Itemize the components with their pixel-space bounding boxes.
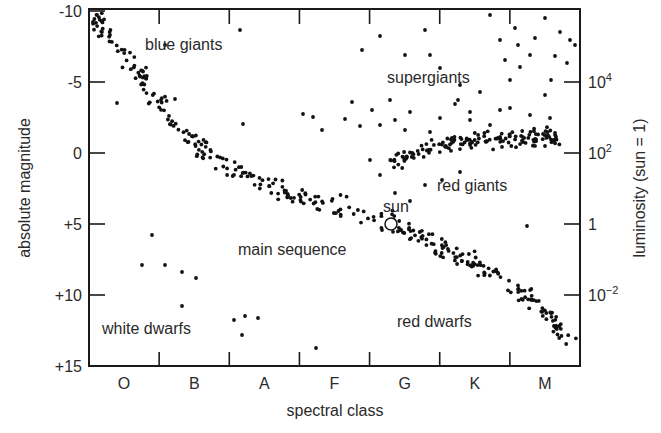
star-dot — [543, 144, 547, 148]
star-dot — [98, 18, 102, 22]
star-dot — [574, 336, 578, 340]
star-dot — [430, 242, 434, 246]
star-dot — [190, 134, 194, 138]
star-dot — [258, 187, 262, 191]
star-dot — [530, 294, 534, 298]
star-dot — [423, 28, 427, 32]
star-dot — [487, 266, 491, 270]
star-dot — [491, 148, 495, 152]
star-dot — [503, 58, 507, 62]
star-dot — [554, 324, 558, 328]
star-dot — [518, 65, 522, 69]
star-dot — [281, 179, 285, 183]
star-dot — [553, 141, 557, 145]
star-dot — [291, 200, 295, 204]
star-dot — [276, 192, 280, 196]
star-dot — [553, 54, 557, 58]
star-dot — [99, 30, 103, 34]
star-dot — [183, 138, 187, 142]
star-dot — [478, 90, 482, 94]
star-dot — [532, 298, 536, 302]
star-dot — [372, 218, 376, 222]
star-dot — [123, 48, 127, 52]
star-dot — [308, 198, 312, 202]
star-dot — [483, 131, 487, 135]
star-dot — [449, 149, 453, 153]
star-dot — [519, 134, 523, 138]
star-dot — [132, 55, 136, 59]
star-dot — [412, 152, 416, 156]
star-dot — [204, 140, 208, 144]
star-dot — [504, 137, 508, 141]
star-dot — [152, 92, 156, 96]
star-dot — [430, 138, 434, 142]
star-dot — [466, 138, 470, 142]
label-supergiants: supergiants — [387, 69, 470, 86]
star-dot — [240, 333, 244, 337]
star-dot — [396, 163, 400, 167]
star-dot — [446, 247, 450, 251]
star-dot — [140, 263, 144, 267]
star-dot — [514, 145, 518, 149]
star-dot — [427, 232, 431, 236]
star-dot — [488, 123, 492, 127]
star-dot — [267, 177, 271, 181]
star-dot — [532, 127, 536, 131]
star-dot — [163, 95, 167, 99]
star-dot — [95, 24, 99, 28]
star-dot — [168, 122, 172, 126]
star-dot — [185, 129, 189, 133]
star-dot — [419, 235, 423, 239]
star-dot — [173, 97, 177, 101]
star-dot — [500, 132, 504, 136]
y-tick-label: 0 — [73, 145, 82, 162]
y-tick-label: +10 — [55, 287, 82, 304]
star-dot — [400, 166, 404, 170]
star-dot — [148, 100, 152, 104]
star-dot — [378, 34, 382, 38]
star-dot — [455, 246, 459, 250]
star-dot — [555, 327, 559, 331]
star-dot — [453, 135, 457, 139]
star-dot — [92, 28, 96, 32]
star-dot — [455, 262, 459, 266]
star-dot — [529, 287, 533, 291]
star-dot — [552, 330, 556, 334]
star-dot — [420, 229, 424, 233]
star-dot — [425, 243, 429, 247]
star-dot — [115, 44, 119, 48]
star-dot — [318, 208, 322, 212]
star-dot — [180, 304, 184, 308]
star-dot — [403, 128, 407, 132]
star-dot — [413, 233, 417, 237]
star-dot — [423, 183, 427, 187]
star-dot — [474, 256, 478, 260]
star-dot — [426, 149, 430, 153]
star-dot — [194, 276, 198, 280]
star-dot — [256, 316, 260, 320]
star-dot — [143, 74, 147, 78]
star-dot — [156, 100, 160, 104]
star-dot — [140, 82, 144, 86]
star-dot — [372, 215, 376, 219]
star-dot — [508, 106, 512, 110]
star-dot — [513, 138, 517, 142]
star-dot — [366, 217, 370, 221]
star-dot — [553, 131, 557, 135]
star-dot — [388, 98, 392, 102]
star-dot — [528, 113, 532, 117]
star-dot — [138, 75, 142, 79]
star-dot — [281, 185, 285, 189]
star-dot — [108, 33, 112, 37]
star-dot — [356, 208, 360, 212]
star-dot — [128, 51, 132, 55]
star-dot — [145, 91, 149, 95]
star-dot — [221, 157, 225, 161]
star-dot — [197, 140, 201, 144]
star-dot — [473, 249, 477, 253]
star-dot — [140, 69, 144, 73]
star-dot — [523, 289, 527, 293]
y-tick-label: -10 — [59, 3, 82, 20]
star-dot — [407, 222, 411, 226]
star-dot — [174, 122, 178, 126]
